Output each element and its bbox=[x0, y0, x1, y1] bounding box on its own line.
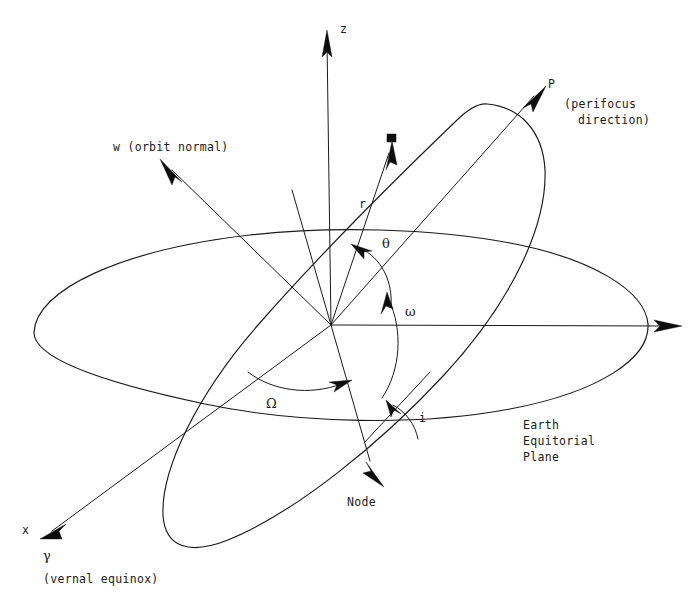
perifocus-note-line1: (perifocus bbox=[564, 97, 636, 111]
inclination-label: i bbox=[419, 411, 426, 425]
perifocus-note-line2: direction) bbox=[578, 113, 650, 127]
radius-label: r bbox=[359, 197, 366, 211]
y-axis bbox=[331, 320, 682, 332]
diagram-canvas: z x γ (vernal equinox) w (orbit normal) … bbox=[0, 0, 697, 600]
node-label: Node bbox=[347, 495, 376, 509]
node-arrowhead bbox=[363, 462, 384, 487]
arg-perigee-label: ω bbox=[405, 304, 416, 319]
true-anomaly-label: θ bbox=[382, 236, 390, 251]
vernal-equinox-note: (vernal equinox) bbox=[43, 572, 159, 586]
z-axis-label: z bbox=[340, 22, 347, 36]
perifocus-arrowhead bbox=[523, 86, 546, 112]
x-axis-label: x bbox=[22, 523, 29, 537]
z-axis bbox=[322, 30, 332, 325]
arg-perigee-arc bbox=[381, 292, 398, 398]
equatorial-plane-line1: Earth bbox=[523, 418, 559, 432]
satellite-marker bbox=[387, 134, 396, 142]
x-axis-arrowhead bbox=[40, 524, 66, 539]
raan-label: Ω bbox=[266, 396, 277, 411]
perifocus-label: P bbox=[548, 77, 555, 91]
vernal-equinox-symbol: γ bbox=[43, 548, 51, 563]
equatorial-plane-line2: Equitorial bbox=[523, 434, 595, 448]
orbit-normal-label: w (orbit normal) bbox=[113, 140, 229, 154]
line-of-nodes bbox=[292, 190, 384, 487]
orbital-elements-diagram: z x γ (vernal equinox) w (orbit normal) … bbox=[0, 0, 697, 600]
true-anomaly-arc bbox=[351, 244, 391, 307]
equatorial-plane-line3: Plane bbox=[523, 450, 559, 464]
x-axis bbox=[40, 325, 331, 539]
orbit-normal-arrowhead bbox=[160, 159, 182, 185]
orbit-normal-axis bbox=[160, 159, 331, 325]
